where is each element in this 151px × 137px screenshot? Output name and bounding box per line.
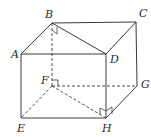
edge-cd — [106, 22, 136, 54]
edge-gh — [106, 86, 137, 118]
right-angle-mark-h-left — [100, 108, 106, 115]
vertex-labels: A B C D E F G H — [10, 7, 150, 135]
edge-cg — [136, 22, 137, 86]
vertex-label-c: C — [139, 7, 148, 20]
edge-ab — [21, 23, 52, 54]
vertex-label-f: F — [40, 74, 49, 87]
vertex-label-b: B — [44, 8, 53, 21]
right-angle-mark-b — [52, 27, 57, 34]
edge-bc — [52, 22, 136, 23]
edge-bd — [52, 23, 106, 54]
solid-edges — [21, 22, 137, 118]
vertex-label-d: D — [109, 53, 119, 66]
vertex-label-g: G — [141, 78, 150, 91]
vertex-label-e: E — [16, 122, 25, 135]
cuboid-diagram: A B C D E F G H — [0, 0, 151, 137]
right-angle-mark-f — [52, 80, 58, 86]
vertex-label-a: A — [10, 48, 19, 61]
edge-fe — [21, 86, 52, 118]
edge-fh — [52, 86, 106, 118]
vertex-label-h: H — [101, 122, 112, 135]
